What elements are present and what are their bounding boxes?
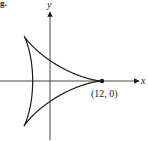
y-axis-label: y bbox=[46, 0, 52, 10]
x-axis-label: x bbox=[140, 75, 146, 86]
deltoid-plot: (12, 0) x y g. bbox=[0, 0, 148, 141]
point-marker bbox=[100, 79, 104, 83]
point-label: (12, 0) bbox=[91, 88, 118, 100]
fragment-label: g. bbox=[0, 0, 7, 8]
